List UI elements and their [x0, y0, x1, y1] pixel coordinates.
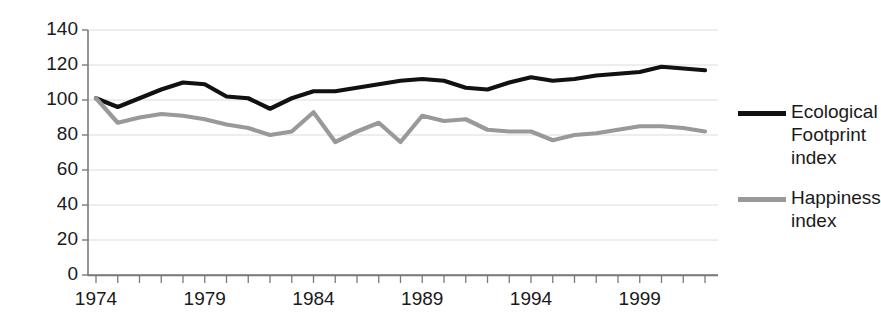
y-axis-tick-label: 100	[20, 88, 78, 110]
x-axis-ticks-group	[96, 276, 705, 283]
legend-item-ecological-footprint-index: Ecological Footprint index	[738, 100, 880, 169]
y-axis-tick-label: 140	[20, 18, 78, 40]
x-axis-tick-label: 1979	[170, 288, 240, 310]
series-line-ecological-footprint-index	[96, 67, 705, 109]
legend-swatch-happiness-index	[738, 197, 786, 202]
gridlines-group	[82, 30, 718, 275]
y-axis-tick-label: 120	[20, 53, 78, 75]
y-axis-tick-label: 0	[20, 263, 78, 285]
x-axis-tick-label: 1989	[387, 288, 457, 310]
y-axis-tick-label: 60	[20, 158, 78, 180]
x-axis-tick-label: 1984	[279, 288, 349, 310]
y-axis-tick-label: 20	[20, 228, 78, 250]
x-axis-tick-label: 1999	[605, 288, 675, 310]
legend-item-happiness-index: Happiness index	[738, 186, 881, 232]
data-series-group	[96, 67, 705, 142]
legend-label-happiness-index: Happiness index	[791, 186, 881, 232]
legend-label-ecological-footprint-index: Ecological Footprint index	[791, 100, 880, 169]
legend-swatch-ecological-footprint-index	[738, 111, 786, 116]
y-axis-tick-label: 40	[20, 193, 78, 215]
y-axis-tick-label: 80	[20, 123, 78, 145]
x-axis-tick-label: 1994	[496, 288, 566, 310]
x-axis-tick-label: 1974	[61, 288, 131, 310]
